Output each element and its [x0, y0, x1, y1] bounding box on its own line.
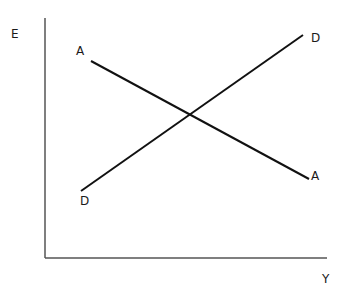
x-axis-label: Y	[321, 272, 330, 286]
line-d-start-label: D	[80, 194, 89, 208]
line-d-end-label: D	[311, 31, 320, 45]
y-axis-label: E	[11, 27, 19, 41]
line-a-end-label: A	[311, 169, 320, 183]
line-d	[81, 35, 303, 191]
line-a-start-label: A	[76, 44, 85, 58]
diagram-canvas: E Y A A D D	[0, 0, 342, 291]
